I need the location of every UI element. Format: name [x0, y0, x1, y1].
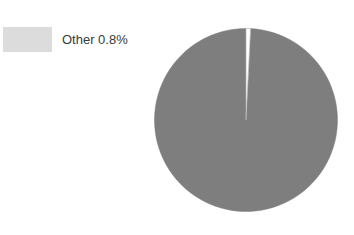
- pie-chart-figure: Other 0.8%: [0, 0, 354, 235]
- pie-svg: [154, 28, 338, 212]
- pie-plot-area: [154, 28, 338, 212]
- legend-item-other: Other 0.8%: [3, 27, 128, 52]
- legend-swatch-other-icon: [3, 27, 52, 52]
- legend: Other 0.8%: [3, 27, 128, 52]
- legend-label-other: Other 0.8%: [62, 33, 128, 46]
